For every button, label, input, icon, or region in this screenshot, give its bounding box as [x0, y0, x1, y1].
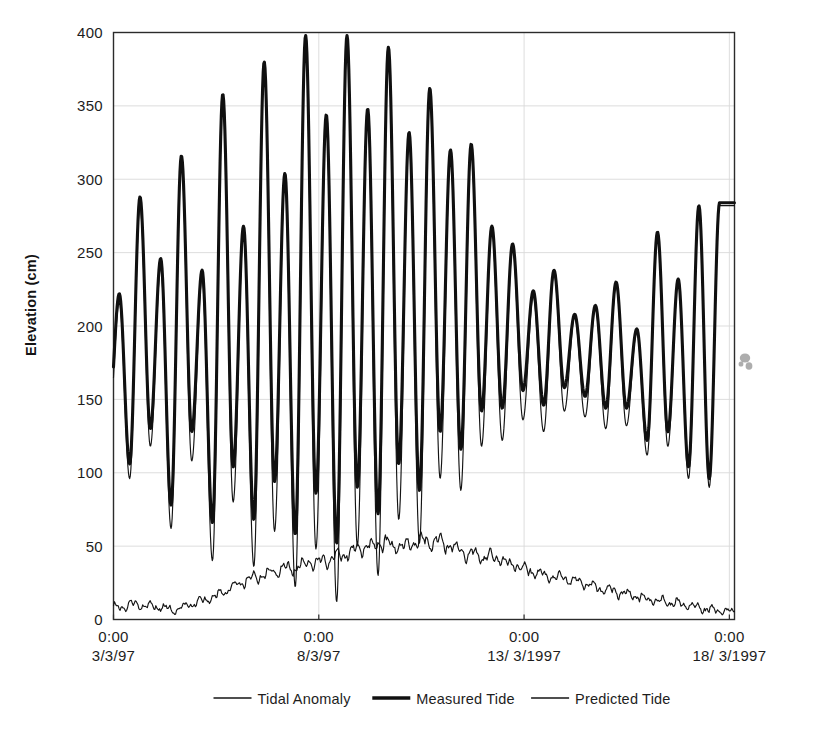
x-axis-tick-label-date: 8/3/97: [297, 647, 341, 664]
legend-label-tidal-anomaly: Tidal Anomaly: [258, 691, 352, 707]
y-axis-tick-label: 350: [77, 97, 103, 114]
y-axis-tick-label: 100: [77, 464, 103, 481]
y-axis-tick-label: 150: [77, 391, 103, 408]
y-axis-title: Elevation (cm): [23, 254, 39, 356]
x-axis-tick-label-time: 0:00: [98, 628, 128, 645]
x-axis-tick-label-date: 18/ 3/1997: [692, 647, 766, 664]
x-axis-tick-label-date: 13/ 3/1997: [487, 647, 561, 664]
legend-label-predicted-tide: Predicted Tide: [575, 691, 671, 707]
x-axis-tick-label-date: 3/3/97: [92, 647, 136, 664]
chart-legend: Tidal AnomalyMeasured TidePredicted Tide: [214, 691, 671, 707]
y-axis-tick-label: 200: [77, 318, 103, 335]
x-axis-tick-label-time: 0:00: [714, 628, 744, 645]
y-axis-tick-label: 300: [77, 171, 103, 188]
x-axis-tick-label-time: 0:00: [304, 628, 334, 645]
legend-label-measured-tide: Measured Tide: [416, 691, 515, 707]
y-axis-tick-label: 250: [77, 244, 103, 261]
tide-chart-figure: Elevation (cm) 050100150200250300350400 …: [0, 0, 813, 740]
x-axis-tick-label-time: 0:00: [509, 628, 539, 645]
y-axis-tick-label: 50: [86, 538, 103, 555]
y-axis-tick-label: 400: [77, 24, 103, 41]
y-axis-tick-label: 0: [94, 611, 103, 628]
